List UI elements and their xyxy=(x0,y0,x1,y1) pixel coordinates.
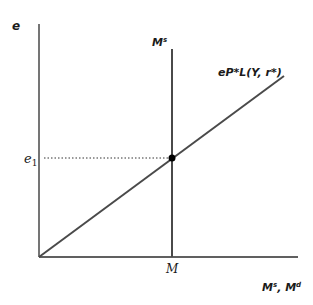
money-demand-label: eP*L(Y, r*) xyxy=(218,66,282,79)
e1-label: e1 xyxy=(24,151,37,168)
money-supply-label: Ms xyxy=(152,36,167,49)
x-axis-label: Ms, Md xyxy=(262,281,302,294)
y-axis-label: e xyxy=(12,19,20,33)
money-demand-line xyxy=(39,76,284,257)
equilibrium-point xyxy=(169,155,176,162)
m-tick-label: M xyxy=(165,262,179,276)
money-market-diagram: e Ms eP*L(Y, r*) e1 M Ms, Md xyxy=(0,0,313,305)
